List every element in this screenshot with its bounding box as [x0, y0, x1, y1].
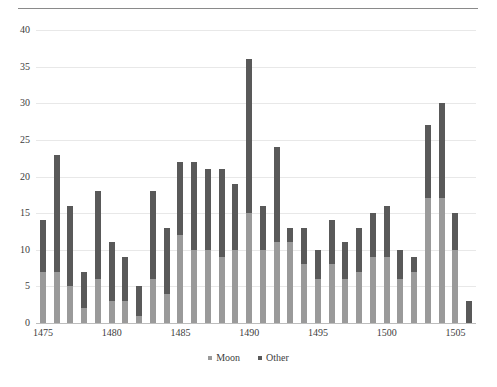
bar-segment-other-1487	[205, 169, 211, 250]
bar-segment-moon-1489	[232, 250, 238, 323]
legend-label-moon: Moon	[216, 352, 240, 363]
bar-1482[interactable]	[136, 286, 142, 323]
gridline-5	[36, 286, 476, 287]
bar-1505[interactable]	[452, 213, 458, 323]
bar-segment-other-1475	[40, 220, 46, 271]
y-tick-label-0: 0	[0, 318, 30, 328]
bar-1484[interactable]	[164, 228, 170, 323]
bar-segment-moon-1500	[384, 257, 390, 323]
bar-1489[interactable]	[232, 184, 238, 323]
bar-segment-other-1491	[260, 206, 266, 250]
bar-1496[interactable]	[329, 220, 335, 323]
bar-segment-other-1499	[370, 213, 376, 257]
bar-segment-other-1481	[122, 257, 128, 301]
bar-segment-other-1485	[177, 162, 183, 235]
bar-segment-other-1494	[301, 228, 307, 265]
bar-segment-moon-1499	[370, 257, 376, 323]
chart-legend: MoonOther	[0, 352, 497, 363]
bar-segment-other-1492	[274, 147, 280, 242]
bar-segment-moon-1483	[150, 279, 156, 323]
bar-segment-moon-1494	[301, 264, 307, 323]
bar-segment-other-1476	[54, 155, 60, 272]
x-tick-label-1485: 1485	[170, 327, 190, 339]
x-axis-labels: 1475148014851490149515001505	[36, 327, 476, 343]
y-tick-label-40: 40	[0, 25, 30, 35]
x-tick-label-1490: 1490	[239, 327, 259, 339]
bar-1504[interactable]	[439, 103, 445, 323]
y-tick-label-25: 25	[0, 135, 30, 145]
bar-1479[interactable]	[95, 191, 101, 323]
bar-1493[interactable]	[287, 228, 293, 323]
bar-segment-moon-1496	[329, 264, 335, 323]
bar-1492[interactable]	[274, 147, 280, 323]
bar-segment-moon-1477	[67, 286, 73, 323]
plot-area	[36, 30, 476, 323]
gridline-20	[36, 177, 476, 178]
bar-segment-moon-1486	[191, 250, 197, 323]
legend-item-other[interactable]: Other	[258, 352, 289, 363]
bar-segment-moon-1481	[122, 301, 128, 323]
bar-1501[interactable]	[397, 250, 403, 323]
bar-segment-other-1483	[150, 191, 156, 279]
legend-item-moon[interactable]: Moon	[208, 352, 240, 363]
bar-segment-moon-1485	[177, 235, 183, 323]
legend-swatch-icon-other	[258, 356, 262, 360]
bar-segment-moon-1505	[452, 250, 458, 323]
bar-segment-other-1490	[246, 59, 252, 213]
x-tick-label-1495: 1495	[308, 327, 328, 339]
bar-1486[interactable]	[191, 162, 197, 323]
bar-1495[interactable]	[315, 250, 321, 323]
bar-1500[interactable]	[384, 206, 390, 323]
bar-1497[interactable]	[342, 242, 348, 323]
bar-segment-moon-1491	[260, 250, 266, 323]
bar-segment-other-1478	[81, 272, 87, 309]
bar-segment-moon-1475	[40, 272, 46, 323]
bar-segment-other-1497	[342, 242, 348, 279]
bar-segment-other-1506	[466, 301, 472, 323]
bar-segment-moon-1478	[81, 308, 87, 323]
gridline-15	[36, 213, 476, 214]
bar-1494[interactable]	[301, 228, 307, 323]
x-tick-label-1505: 1505	[445, 327, 465, 339]
bar-segment-other-1482	[136, 286, 142, 315]
bar-1483[interactable]	[150, 191, 156, 323]
bar-1477[interactable]	[67, 206, 73, 323]
x-tick-label-1500: 1500	[377, 327, 397, 339]
bar-1485[interactable]	[177, 162, 183, 323]
bar-segment-other-1500	[384, 206, 390, 257]
x-axis-line	[36, 323, 476, 324]
bar-segment-other-1493	[287, 228, 293, 243]
bar-1481[interactable]	[122, 257, 128, 323]
bar-1478[interactable]	[81, 272, 87, 323]
bar-1502[interactable]	[411, 257, 417, 323]
bar-segment-other-1477	[67, 206, 73, 287]
bar-segment-other-1488	[219, 169, 225, 257]
y-tick-label-15: 15	[0, 208, 30, 218]
y-tick-label-5: 5	[0, 281, 30, 291]
y-tick-label-30: 30	[0, 98, 30, 108]
bar-1487[interactable]	[205, 169, 211, 323]
bar-segment-moon-1476	[54, 272, 60, 323]
bar-1503[interactable]	[425, 125, 431, 323]
bar-segment-moon-1497	[342, 279, 348, 323]
bar-segment-moon-1484	[164, 294, 170, 323]
bar-1480[interactable]	[109, 242, 115, 323]
bar-1490[interactable]	[246, 59, 252, 323]
x-tick-label-1480: 1480	[102, 327, 122, 339]
bar-segment-other-1503	[425, 125, 431, 198]
bar-segment-other-1496	[329, 220, 335, 264]
bar-1499[interactable]	[370, 213, 376, 323]
bar-segment-moon-1495	[315, 279, 321, 323]
bar-segment-other-1480	[109, 242, 115, 301]
gridline-25	[36, 140, 476, 141]
bar-segment-other-1486	[191, 162, 197, 250]
bar-segment-moon-1504	[439, 198, 445, 323]
bar-1488[interactable]	[219, 169, 225, 323]
bar-1498[interactable]	[356, 228, 362, 323]
gridline-10	[36, 250, 476, 251]
legend-swatch-icon-moon	[208, 356, 212, 360]
bar-1475[interactable]	[40, 220, 46, 323]
bar-1491[interactable]	[260, 206, 266, 323]
bar-1476[interactable]	[54, 155, 60, 323]
bar-1506[interactable]	[466, 301, 472, 323]
